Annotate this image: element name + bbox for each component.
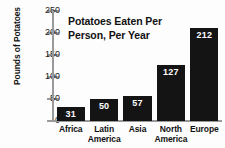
x-axis-category-label-line: America [154,134,187,144]
bar[interactable]: 31 [57,107,85,121]
x-axis-category-label: NorthAmerica [154,124,187,144]
y-axis-tick-label-wrap: 0 [0,116,60,125]
x-axis-category-label-line: Africa [54,124,87,134]
x-axis-category-label-line: Latin [87,124,120,134]
bar-value-label: 31 [65,109,75,119]
x-axis-category-label: Africa [54,124,87,134]
chart-title-line-1: Potatoes Eaten Per [68,14,162,28]
bar[interactable]: 127 [157,65,185,121]
x-axis-category-label-line: America [87,134,120,144]
x-axis-category-label: Europe [188,124,221,134]
chart-title-line-2: Person, Per Year [68,28,162,42]
bar-value-label: 212 [196,30,212,40]
y-axis-tick-label-wrap: 200 [0,28,60,37]
x-axis-category-label: LatinAmerica [87,124,120,144]
bar-value-label: 127 [163,67,179,77]
bar[interactable]: 57 [123,96,151,121]
x-axis-category-label-line: Europe [188,124,221,134]
y-axis-tick-label-wrap: 250 [0,6,60,15]
chart-title: Potatoes Eaten Per Person, Per Year [68,14,162,42]
x-axis-category-label-line: Asia [121,124,154,134]
bar-value-label: 50 [99,101,109,111]
bar-value-label: 57 [132,98,142,108]
x-axis-category-label-line: North [154,124,187,134]
y-axis-tick-label-wrap: 150 [0,50,60,59]
y-axis-tick-label-wrap: 50 [0,94,60,103]
bar-chart: Pounds of Potatoes 050100150200250 31505… [0,0,225,148]
bar[interactable]: 50 [90,99,118,121]
y-axis-tick-label-wrap: 100 [0,72,60,81]
x-axis-category-label: Asia [121,124,154,134]
bar-slot: 212 [190,11,218,121]
bar[interactable]: 212 [190,28,218,121]
